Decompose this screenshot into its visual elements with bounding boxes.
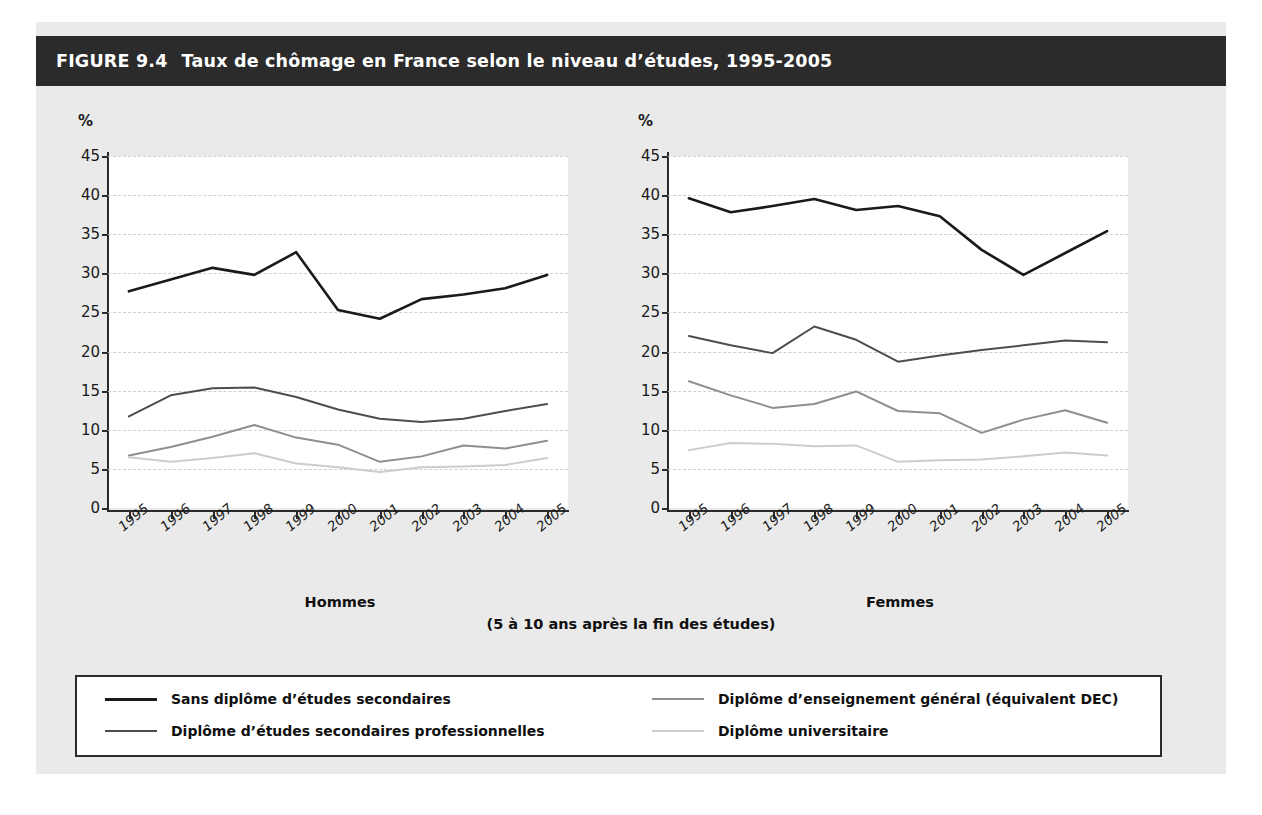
figure-title-text: Taux de chômage en France selon le nivea… [182,51,833,71]
panel-caption-hommes: Hommes [60,594,620,610]
y-axis-tick-label: 10 [60,421,100,439]
chart-panel-femmes: % Femmes 0510152025303540451995199619971… [620,108,1180,578]
legend-item[interactable]: Diplôme d’enseignement général (équivale… [652,691,1118,707]
series-line [689,443,1107,462]
y-axis-tick-label: 45 [60,147,100,165]
y-axis-tick-label: 0 [60,499,100,517]
legend-item[interactable]: Diplôme d’études secondaires professionn… [105,723,545,739]
legend-swatch-line-icon [652,698,704,700]
y-axis-tick-label: 40 [620,186,660,204]
series-layer [668,156,1128,508]
series-line [129,425,547,462]
y-axis-tick-label: 5 [60,460,100,478]
series-line [129,252,547,318]
legend-label: Diplôme d’études secondaires professionn… [171,723,545,739]
y-axis-unit-label-femmes: % [638,112,653,130]
series-line [129,388,547,422]
y-axis-tick-label: 10 [620,421,660,439]
y-axis-tick-label: 25 [620,303,660,321]
legend-swatch-line-icon [105,730,157,732]
y-axis-tick-label: 35 [60,225,100,243]
panel-caption-femmes: Femmes [620,594,1180,610]
legend-item[interactable]: Diplôme universitaire [652,723,889,739]
y-axis-tick-mark [662,508,669,510]
legend-label: Diplôme d’enseignement général (équivale… [718,691,1118,707]
y-axis-tick-label: 5 [620,460,660,478]
figure-title: FIGURE 9.4Taux de chômage en France selo… [56,51,832,71]
legend-swatch-line-icon [105,698,157,701]
y-axis-tick-label: 15 [620,382,660,400]
y-axis-tick-label: 15 [60,382,100,400]
series-line [689,198,1107,275]
y-axis-tick-label: 30 [620,264,660,282]
y-axis-unit-label-hommes: % [78,112,93,130]
legend-swatch-line-icon [652,730,704,732]
figure-subnote: (5 à 10 ans après la fin des études) [0,616,1262,632]
series-layer [108,156,568,508]
y-axis-tick-label: 30 [60,264,100,282]
y-axis-tick-mark [102,508,109,510]
legend-item[interactable]: Sans diplôme d’études secondaires [105,691,451,707]
series-line [689,381,1107,433]
y-axis-tick-label: 40 [60,186,100,204]
y-axis-tick-label: 45 [620,147,660,165]
figure-number: FIGURE 9.4 [56,51,168,71]
legend-label: Diplôme universitaire [718,723,889,739]
series-line [129,453,547,472]
y-axis-tick-label: 25 [60,303,100,321]
figure-title-bar: FIGURE 9.4Taux de chômage en France selo… [36,36,1226,86]
y-axis-tick-label: 0 [620,499,660,517]
y-axis-tick-label: 20 [60,343,100,361]
legend: Sans diplôme d’études secondairesDiplôme… [75,675,1162,757]
y-axis-tick-label: 20 [620,343,660,361]
series-line [689,327,1107,362]
chart-panel-hommes: % Hommes 0510152025303540451995199619971… [60,108,620,578]
legend-label: Sans diplôme d’études secondaires [171,691,451,707]
figure-root: FIGURE 9.4Taux de chômage en France selo… [0,0,1262,815]
y-axis-tick-label: 35 [620,225,660,243]
